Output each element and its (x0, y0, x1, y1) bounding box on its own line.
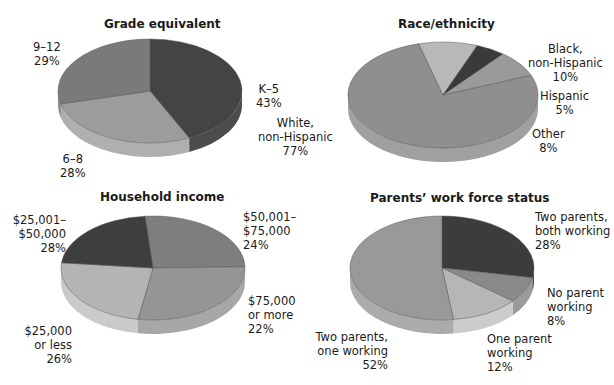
label-income-25k-less: $25,000 or less 26% (22, 324, 72, 366)
label-one-working: Two parents, one working 52% (302, 330, 388, 372)
label-income-25k-50k: $25,001– $50,000 28% (12, 213, 66, 255)
label-6-8: 6–8 28% (60, 152, 86, 180)
label-other: Other 8% (532, 127, 565, 155)
label-black: Black, non-Hispanic 10% (528, 42, 603, 84)
label-both-working: Two parents, both working 28% (535, 210, 610, 252)
label-white: White, non-Hispanic 77% (258, 116, 333, 158)
label-k5: K–5 43% (256, 82, 282, 110)
chart-title-race: Race/ethnicity (398, 17, 495, 31)
pie-2 (61, 216, 245, 334)
label-hispanic: Hispanic 5% (540, 89, 589, 117)
pie-3 (350, 216, 534, 334)
label-income-75k-more: $75,000 or more 22% (248, 294, 296, 336)
label-no-parent: No parent working 8% (547, 286, 604, 328)
chart-title-parents: Parents’ work force status (370, 191, 549, 205)
pie-1 (348, 42, 538, 162)
chart-title-grade: Grade equivalent (104, 17, 221, 31)
chart-title-income: Household income (100, 190, 224, 204)
label-9-12: 9–12 29% (33, 40, 61, 68)
pie-0 (58, 39, 242, 157)
label-income-50k-75k: $50,001– $75,000 24% (243, 210, 296, 252)
label-one-parent: One parent working 12% (487, 332, 552, 374)
